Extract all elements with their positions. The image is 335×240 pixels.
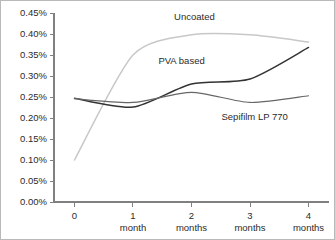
y-tick-label: 0.15%: [20, 133, 47, 144]
line-chart: 0.00%0.05%0.10%0.15%0.20%0.25%0.30%0.35%…: [1, 1, 334, 239]
y-tick-label: 0.00%: [20, 196, 47, 207]
x-tick-label: months: [176, 222, 207, 233]
y-tick-label: 0.40%: [20, 28, 47, 39]
x-tick-label: 1: [130, 210, 135, 221]
chart-figure: 0.00%0.05%0.10%0.15%0.20%0.25%0.30%0.35%…: [0, 0, 335, 240]
y-tick-label: 0.20%: [20, 112, 47, 123]
x-tick-label: months: [293, 222, 324, 233]
x-tick-label: 4: [306, 210, 311, 221]
series-label-uncoated: Uncoated: [174, 11, 215, 22]
x-tick-label: 0: [72, 210, 77, 221]
y-tick-label: 0.35%: [20, 49, 47, 60]
series-label-pva-based: PVA based: [158, 55, 204, 66]
x-tick-label: 3: [247, 210, 252, 221]
series-annotations-group: UncoatedPVA basedSepifilm LP 770: [158, 11, 287, 122]
x-axis-group: 01month2months3months4months: [54, 202, 329, 233]
y-tick-label: 0.45%: [20, 7, 47, 18]
series-lines-group: [74, 33, 308, 160]
series-label-sepifilm-lp-770: Sepifilm LP 770: [222, 111, 288, 122]
y-tick-label: 0.10%: [20, 154, 47, 165]
y-tick-label: 0.30%: [20, 70, 47, 81]
series-line-uncoated: [74, 33, 308, 160]
y-axis-group: 0.00%0.05%0.10%0.15%0.20%0.25%0.30%0.35%…: [20, 7, 54, 207]
x-tick-label: months: [234, 222, 265, 233]
x-tick-label: month: [120, 222, 146, 233]
y-tick-group: 0.00%0.05%0.10%0.15%0.20%0.25%0.30%0.35%…: [20, 7, 54, 207]
y-tick-label: 0.05%: [20, 175, 47, 186]
x-tick-label: 2: [189, 210, 194, 221]
y-tick-label: 0.25%: [20, 91, 47, 102]
x-tick-group: 01month2months3months4months: [72, 202, 325, 233]
